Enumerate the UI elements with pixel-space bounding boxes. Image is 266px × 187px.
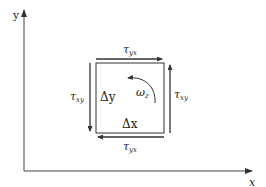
rotation-label: ωz <box>136 86 149 100</box>
right-stress-label: τxy <box>174 88 189 102</box>
y-axis-label: y <box>12 9 20 22</box>
x-axis-label: x <box>249 176 256 187</box>
top-stress-label: τyx <box>123 43 137 57</box>
height-label: Δy <box>100 90 116 104</box>
left-stress-label: τxy <box>70 90 85 104</box>
shear-stress-diagram: y x τyx τyx τxy τxy Δy Δx ωz <box>0 0 266 187</box>
width-label: Δx <box>122 117 138 131</box>
bottom-stress-label: τyx <box>123 140 137 154</box>
